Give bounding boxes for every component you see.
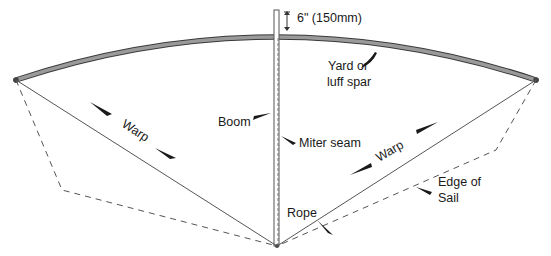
dimension-label: 6" (150mm)	[297, 11, 362, 25]
rope-label: Rope	[287, 206, 317, 220]
yard-label-line1: Yard or	[328, 59, 368, 73]
edge-arrow-icon	[416, 187, 432, 195]
pointer-arrows	[90, 52, 438, 235]
rope-right	[277, 80, 536, 246]
warp-left-arrow-down-icon	[155, 148, 176, 159]
sail-diagram: 6" (150mm) Yard or luff spar Boom Miter …	[0, 0, 551, 256]
warp-right-label: Warp	[374, 138, 407, 165]
rope-arrow-icon	[317, 220, 333, 235]
boom	[274, 10, 279, 248]
warp-right-arrow-up-icon	[416, 122, 438, 134]
miter-seam-arrow-icon	[281, 136, 296, 145]
warp-left-arrow-up-icon	[90, 102, 112, 116]
rope-left	[16, 80, 277, 246]
boom-arrow-icon	[253, 113, 271, 120]
boom-label: Boom	[218, 115, 251, 129]
yard-label-line2: luff spar	[327, 75, 371, 89]
warp-left-label: Warp	[119, 117, 151, 145]
warp-right-arrow-down-icon	[350, 163, 372, 175]
edge-label-line2: Sail	[438, 191, 459, 205]
miter-seam-label: Miter seam	[299, 136, 361, 150]
edge-label-line1: Edge of	[438, 175, 482, 189]
dimension-marker	[284, 11, 290, 31]
